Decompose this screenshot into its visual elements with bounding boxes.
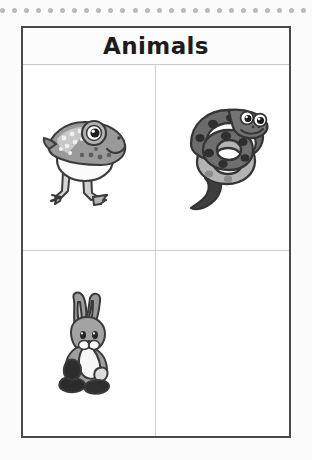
frog-illustration	[37, 105, 141, 209]
decorative-dot	[133, 8, 138, 13]
decorative-dot	[145, 8, 150, 13]
decorative-dot	[72, 8, 77, 13]
decorative-dot	[253, 8, 258, 13]
decorative-dot	[277, 8, 282, 13]
decorative-dot	[205, 8, 210, 13]
decorative-dot	[0, 8, 5, 13]
decorative-dot	[289, 8, 294, 13]
decorative-dot	[12, 8, 17, 13]
decorative-dot	[60, 8, 65, 13]
decorative-dot	[217, 8, 222, 13]
worksheet-frame: Animals	[21, 26, 291, 438]
animal-grid	[23, 65, 289, 436]
decorative-dot	[48, 8, 53, 13]
snake-illustration	[173, 100, 273, 214]
decorative-dot	[84, 8, 89, 13]
decorative-dot	[96, 8, 101, 13]
decorative-dot	[157, 8, 162, 13]
dot-strip-decoration	[0, 4, 312, 16]
decorative-dot	[193, 8, 198, 13]
decorative-dot	[181, 8, 186, 13]
worksheet-title-bar: Animals	[23, 28, 289, 65]
grid-cell-bottom-right[interactable]	[156, 251, 289, 437]
decorative-dot	[265, 8, 270, 13]
decorative-dot	[229, 8, 234, 13]
decorative-dot	[108, 8, 113, 13]
decorative-dot	[169, 8, 174, 13]
rabbit-illustration	[49, 290, 129, 396]
decorative-dot	[301, 8, 306, 13]
grid-cell-top-left[interactable]	[23, 65, 156, 251]
grid-cell-bottom-left[interactable]	[23, 251, 156, 437]
decorative-dot	[24, 8, 29, 13]
worksheet-page: Animals	[0, 0, 312, 460]
grid-cell-top-right[interactable]	[156, 65, 289, 251]
page-title: Animals	[103, 35, 209, 58]
decorative-dot	[241, 8, 246, 13]
decorative-dot	[36, 8, 41, 13]
decorative-dot	[120, 8, 125, 13]
